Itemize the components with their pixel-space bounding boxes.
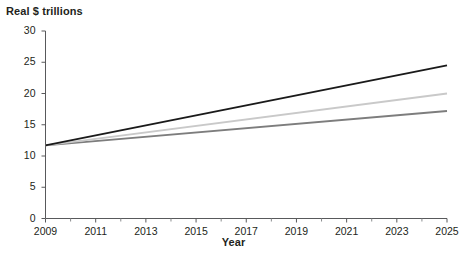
series-line-high-projection — [46, 65, 448, 145]
x-tick-label: 2025 — [427, 225, 467, 237]
x-tick-label: 2023 — [377, 225, 417, 237]
y-tick-label: 10 — [10, 149, 36, 161]
series-line-middle-projection — [46, 94, 448, 146]
x-tick-label: 2017 — [226, 225, 266, 237]
chart-container: Real $ trillions Year 051015202530 20092… — [0, 0, 467, 256]
y-tick-label: 25 — [10, 55, 36, 67]
x-tick-label: 2021 — [327, 225, 367, 237]
y-tick-label: 30 — [10, 24, 36, 36]
data-series-group — [46, 65, 448, 145]
plot-area — [0, 0, 467, 256]
x-tick-label: 2011 — [76, 225, 116, 237]
x-tick-marks — [46, 219, 448, 223]
series-line-low-projection — [46, 111, 448, 145]
axis-lines — [46, 31, 448, 219]
x-tick-label: 2019 — [276, 225, 316, 237]
y-tick-label: 15 — [10, 118, 36, 130]
y-tick-label: 0 — [10, 212, 36, 224]
y-tick-marks — [42, 31, 46, 219]
x-tick-label: 2013 — [126, 225, 166, 237]
y-tick-label: 20 — [10, 87, 36, 99]
x-tick-label: 2009 — [26, 225, 66, 237]
x-tick-label: 2015 — [176, 225, 216, 237]
y-tick-label: 5 — [10, 180, 36, 192]
